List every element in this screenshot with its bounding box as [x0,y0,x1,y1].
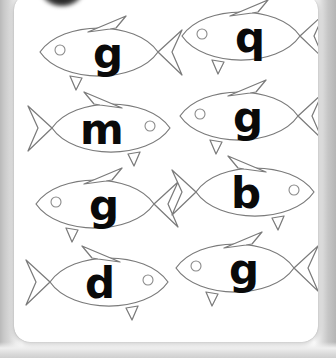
fish-card-g-3[interactable]: g [172,76,318,156]
fish-ventral-fin [206,292,218,306]
fish-letter: m [80,105,124,154]
fish-letter: d [85,259,115,308]
fish-card-q-1[interactable]: q [174,0,318,76]
fish-eye-icon [51,197,61,207]
fish-ventral-fin [126,306,138,320]
fish-card-b-5[interactable]: b [170,152,318,232]
fish-card-d-6[interactable]: d [24,242,176,322]
fish-ventral-fin [66,228,78,242]
fish-eye-icon [191,261,201,271]
fish-tail [26,260,50,305]
fish-letter: g [229,245,259,294]
fish-eye-icon [143,275,153,285]
fish-card-g-4[interactable]: g [28,164,180,244]
fish-eye-icon [55,45,65,55]
fish-eye-icon [195,109,205,119]
fish-ventral-fin [212,60,224,74]
fish-eye-icon [197,29,207,39]
fish-card-g-0[interactable]: g [32,12,184,92]
fish-eye-icon [289,185,299,195]
fish-letter: q [235,13,265,62]
worksheet-scene: gqmggbdg [0,0,336,358]
fish-eye-icon [145,121,155,131]
fish-card-m-2[interactable]: m [26,88,178,168]
worksheet-card: gqmggbdg [14,0,318,342]
fish-grid: gqmggbdg [14,0,318,342]
fish-tail [28,106,52,151]
fish-tail [298,94,318,139]
fish-letter: g [233,93,263,142]
fish-letter: g [93,29,123,78]
fish-tail [172,170,196,215]
fish-tail [294,246,318,291]
backdrop-bottom-edge [0,342,336,358]
fish-tail [300,14,318,59]
fish-letter: g [89,181,119,230]
fish-card-g-7[interactable]: g [168,228,318,308]
fish-letter: b [231,169,261,218]
